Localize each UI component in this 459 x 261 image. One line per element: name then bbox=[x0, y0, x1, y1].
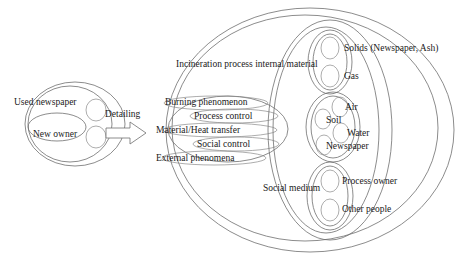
actors-ellipse-other-people bbox=[321, 199, 339, 221]
label-burning-phenomenon: Burning phenomenon bbox=[165, 98, 248, 108]
label-social-medium: Social medium bbox=[263, 184, 320, 194]
label-process-owner: Process owner bbox=[342, 177, 397, 187]
diagram-canvas: Used newspaper New owner Detailing Incin… bbox=[0, 0, 459, 261]
label-used-newspaper: Used newspaper bbox=[14, 98, 77, 108]
label-new-owner: New owner bbox=[33, 130, 77, 140]
left-small-ellipse-upper bbox=[86, 99, 106, 121]
left-small-ellipse-lower bbox=[86, 126, 106, 148]
label-material-heat-transfer: Material/Heat transfer bbox=[156, 126, 240, 136]
label-gas: Gas bbox=[344, 72, 359, 82]
material-states-group-inner bbox=[313, 34, 347, 90]
label-solids: Solids (Newspaper, Ash) bbox=[344, 44, 438, 54]
label-newspaper: Newspaper bbox=[326, 142, 369, 152]
label-external-phenomena: External phenomena bbox=[156, 154, 234, 164]
label-air: Air bbox=[345, 103, 358, 113]
label-water: Water bbox=[347, 129, 369, 139]
label-detailing: Detailing bbox=[105, 110, 140, 120]
left-outer-circle bbox=[25, 82, 125, 166]
label-social-control: Social control bbox=[197, 140, 250, 150]
label-other-people: Other people bbox=[342, 205, 391, 215]
material-ellipse-gas bbox=[321, 65, 339, 87]
material-ellipse-solids bbox=[321, 37, 339, 59]
actors-group-inner bbox=[312, 166, 348, 226]
actors-group-outer bbox=[307, 162, 353, 230]
label-process-control: Process control bbox=[194, 112, 252, 122]
label-soil: Soil bbox=[326, 116, 341, 126]
actors-ellipse-process-owner bbox=[321, 170, 339, 192]
label-incineration-internal-material: Incineration process internal material bbox=[176, 60, 318, 70]
